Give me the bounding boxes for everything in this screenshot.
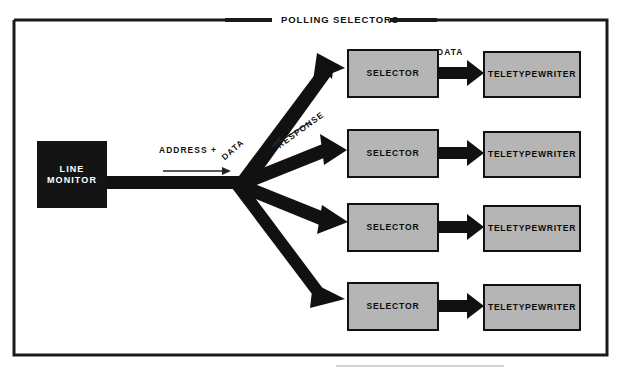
selector-boxes — [348, 50, 438, 330]
line-monitor-box — [37, 141, 107, 208]
address-label: ADDRESS + — [159, 145, 217, 155]
fanout-arrows — [232, 53, 348, 308]
address-direction-arrow — [163, 167, 231, 175]
trunk-link — [107, 176, 240, 189]
teletypewriter-boxes — [484, 52, 580, 330]
polling-selectors-diagram: POLLING SELECTORS LINE MONITOR ADDRESS +… — [0, 0, 620, 371]
data-label-row-1: DATA — [437, 47, 463, 57]
diagram-title: POLLING SELECTORS — [281, 14, 399, 25]
data-arrows — [438, 60, 484, 319]
diagram-canvas — [0, 0, 620, 371]
